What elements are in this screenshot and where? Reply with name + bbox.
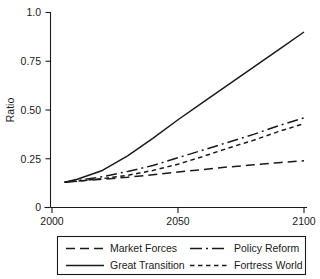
legend-entry-great-transition[interactable]: Great Transition (66, 259, 185, 271)
legend-label-great-transition: Great Transition (110, 259, 185, 271)
series-line-fortress-world (65, 124, 304, 182)
chart-axes (45, 12, 308, 213)
ratio-line-chart: 0 0.25 0.50 0.75 1.0 2000 2050 2100 Rati… (0, 0, 320, 279)
legend-entry-policy-reform[interactable]: Policy Reform (190, 242, 300, 254)
y-tick-label-1: 0.25 (21, 153, 42, 165)
x-tick-labels: 2000 2050 2100 (40, 215, 316, 227)
legend-label-fortress-world: Fortress World (234, 259, 303, 271)
x-tick-marks (52, 208, 304, 214)
series-line-policy-reform (65, 118, 304, 182)
y-axis-title: Ratio (4, 98, 16, 123)
y-tick-marks (45, 13, 51, 208)
x-tick-label-1: 2050 (166, 215, 190, 227)
x-tick-label-2: 2100 (292, 215, 316, 227)
chart-legend: Market Forces Policy Reform Great Transi… (58, 237, 306, 275)
legend-label-market-forces: Market Forces (110, 242, 177, 254)
legend-entry-market-forces[interactable]: Market Forces (66, 242, 177, 254)
chart-svg: 0 0.25 0.50 0.75 1.0 2000 2050 2100 Rati… (0, 0, 320, 279)
x-tick-label-0: 2000 (40, 215, 64, 227)
y-tick-label-3: 0.75 (21, 55, 42, 67)
y-tick-labels: 0 0.25 0.50 0.75 1.0 (21, 6, 42, 213)
y-tick-label-4: 1.0 (26, 6, 41, 18)
legend-entry-fortress-world[interactable]: Fortress World (190, 259, 303, 271)
y-tick-label-2: 0.50 (21, 104, 42, 116)
legend-label-policy-reform: Policy Reform (234, 242, 300, 254)
chart-series-group (65, 32, 304, 182)
series-line-great-transition (65, 32, 304, 182)
y-tick-label-0: 0 (35, 201, 41, 213)
